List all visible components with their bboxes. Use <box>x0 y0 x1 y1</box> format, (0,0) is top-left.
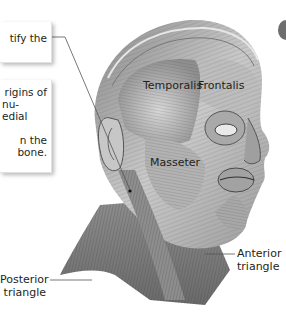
leader-line-dot <box>128 189 131 192</box>
anterior-triangle-line-2: triangle <box>237 260 281 273</box>
callout-1-text: tify the <box>10 32 47 44</box>
label-temporalis: Temporalis <box>143 80 202 92</box>
label-anterior-triangle: Anterior triangle <box>237 247 281 273</box>
label-masseter: Masseter <box>150 157 200 169</box>
callout-2-line-5: n the <box>0 134 47 146</box>
diagram-stage: tify the rigins of nu- edial n the bone.… <box>0 0 286 312</box>
callout-box-1: tify the <box>0 22 52 63</box>
label-posterior-triangle: Posterior triangle <box>0 273 46 299</box>
anterior-triangle-line-1: Anterior <box>237 247 281 260</box>
callout-2-line-2: nu- <box>0 98 47 110</box>
posterior-triangle-line-2: triangle <box>0 286 46 299</box>
callout-2-line-1: rigins of <box>0 86 47 98</box>
callout-2-line-3: edial <box>0 110 47 122</box>
mouth-orbicularis <box>218 168 254 192</box>
posterior-triangle-line-1: Posterior <box>0 273 46 286</box>
callout-2-line-6: bone. <box>0 146 47 158</box>
callout-box-2: rigins of nu- edial n the bone. <box>0 80 52 173</box>
label-frontalis: Frontalis <box>198 80 244 92</box>
callout-2-line-4 <box>0 122 47 134</box>
